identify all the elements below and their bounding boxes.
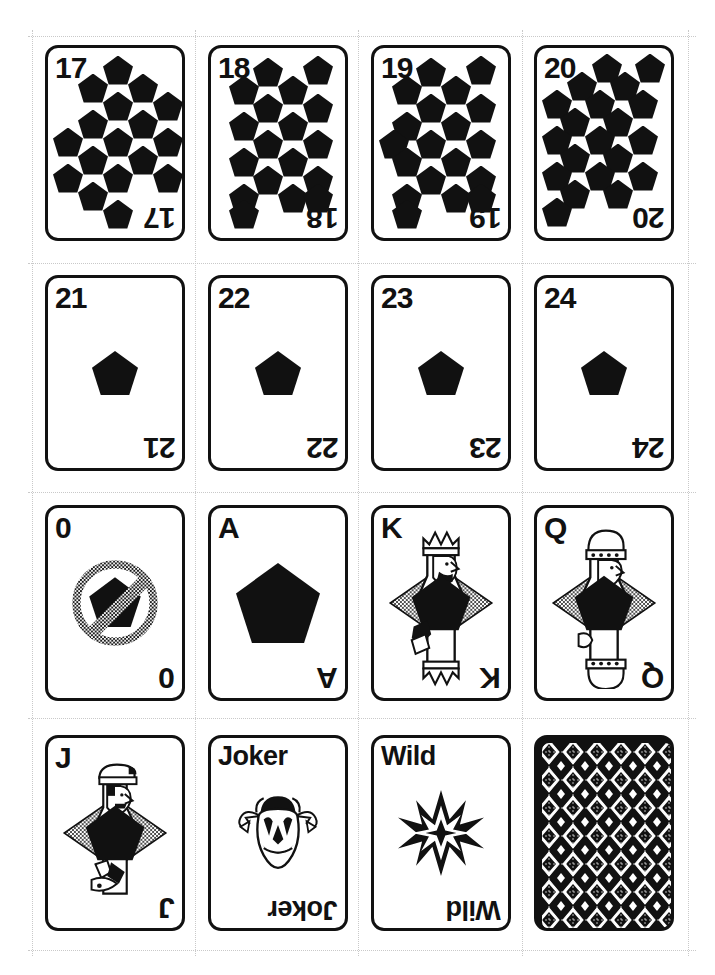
pentagon-pip-icon [303,56,333,85]
diamond-lattice-pattern-icon [537,738,674,931]
pentagon-pip-icon [253,166,283,195]
pentagon-pip-icon [103,164,133,193]
card-index-bottom-right: Joker [268,896,338,923]
pentagon-pip-icon [466,130,496,159]
pentagon-pip-icon [303,130,333,159]
pentagon-pip-icon [253,58,283,87]
card-index-bottom-right: K [480,663,501,693]
pentagon-pip-icon [229,76,259,105]
pentagon-pip-icon [418,351,464,395]
pentagon-pip-icon [253,94,283,123]
card-ace[interactable]: A A [208,505,348,701]
eight-point-star-icon [398,790,484,876]
card-23[interactable]: 23 23 [371,275,511,471]
pentagon-pip-icon [392,76,422,105]
pentagon-pip-icon [441,112,471,141]
pentagon-pip-icon [278,112,308,141]
card-grid: 17 17 18 18 19 19 20 20 21 21 22 [45,45,675,931]
pentagon-pip-icon [78,146,108,175]
card-index-top-left: A [218,513,239,543]
card-index-bottom-right: 17 [144,203,175,233]
card-index-bottom-right: Q [642,663,664,693]
pentagon-pip-icon [441,184,471,213]
card-index-bottom-right: 19 [470,203,501,233]
pentagon-pip-icon [466,94,496,123]
pentagon-pip-icon [92,351,138,395]
pentagon-pip-icon [103,92,133,121]
pentagon-pip-icon [635,54,665,83]
pentagon-pip-icon [229,148,259,177]
pentagon-pip-icon [78,74,108,103]
card-19[interactable]: 19 19 [371,45,511,241]
pentagon-pip-icon [153,164,183,193]
pentagon-pip-icon [236,563,320,643]
card-index-top-left: 21 [55,283,86,313]
pentagon-pip-icon [278,148,308,177]
pentagon-pip-icon [78,110,108,139]
card-index-bottom-right: 22 [307,433,338,463]
pentagon-pip-icon [128,146,158,175]
pentagon-pip-icon [416,130,446,159]
pentagon-pip-icon [253,130,283,159]
pentagon-pip-icon [103,128,133,157]
pentagon-pip-icon [416,166,446,195]
jack-figure-icon [56,747,174,919]
card-18[interactable]: 18 18 [208,45,348,241]
pentagon-pip-icon [416,58,446,87]
card-wild[interactable]: Wild Wild [371,735,511,931]
card-king[interactable]: K [371,505,511,701]
card-index-bottom-right: 20 [633,203,664,233]
pentagon-pip-icon [441,76,471,105]
card-index-bottom-right: 23 [470,433,501,463]
joker-face-icon [233,791,323,875]
pentagon-pip-icon [441,148,471,177]
pentagon-pip-icon [53,164,83,193]
cut-guide-vertical [32,30,33,956]
pentagon-pip-icon [628,162,658,191]
cut-guide-horizontal [28,950,696,951]
pentagon-pip-icon [78,182,108,211]
card-index-bottom-right: 18 [307,203,338,233]
cut-guide-vertical [688,30,689,956]
card-24[interactable]: 24 24 [534,275,674,471]
card-index-top-left: 23 [381,283,412,313]
card-index-top-left: 22 [218,283,249,313]
card-index-bottom-right: 0 [159,663,175,693]
card-joker[interactable]: Joker Joker [208,735,348,931]
pentagon-pip-icon [628,126,658,155]
cut-guide-horizontal [28,36,696,37]
card-21[interactable]: 21 21 [45,275,185,471]
card-back[interactable] [534,735,674,931]
card-17[interactable]: 17 17 [45,45,185,241]
card-index-top-left: 0 [55,513,71,543]
pentagon-pip-icon [303,94,333,123]
card-index-top-left: 24 [544,283,575,313]
card-sheet: 17 17 18 18 19 19 20 20 21 21 22 [0,0,715,975]
pentagon-pip-icon [229,112,259,141]
card-22[interactable]: 22 22 [208,275,348,471]
pentagon-pip-icon [153,92,183,121]
card-index-bottom-right: Wild [446,896,501,923]
pentagon-pip-icon [128,110,158,139]
pentagon-pip-icon [416,94,446,123]
card-index-top-left: Joker [218,743,288,770]
pentagon-pip-icon [278,184,308,213]
pentagon-pip-icon [103,56,133,85]
pentagon-pip-icon [103,200,133,229]
pentagon-pip-icon [466,56,496,85]
card-0[interactable]: 0 0 [45,505,185,701]
pentagon-pip-icon [255,351,301,395]
pentagon-pip-icon [278,76,308,105]
card-20[interactable]: 20 20 [534,45,674,241]
card-jack[interactable]: J [45,735,185,931]
pentagon-pip-icon [53,128,83,157]
card-index-bottom-right: 21 [144,433,175,463]
no-pentagon-icon [69,557,161,649]
pentagon-pip-icon [581,351,627,395]
card-queen[interactable]: Q [534,505,674,701]
card-index-bottom-right: J [159,893,175,923]
card-index-top-left: Wild [381,743,436,770]
card-index-bottom-right: A [317,663,338,693]
card-index-bottom-right: 24 [633,433,664,463]
pentagon-pip-icon [153,128,183,157]
